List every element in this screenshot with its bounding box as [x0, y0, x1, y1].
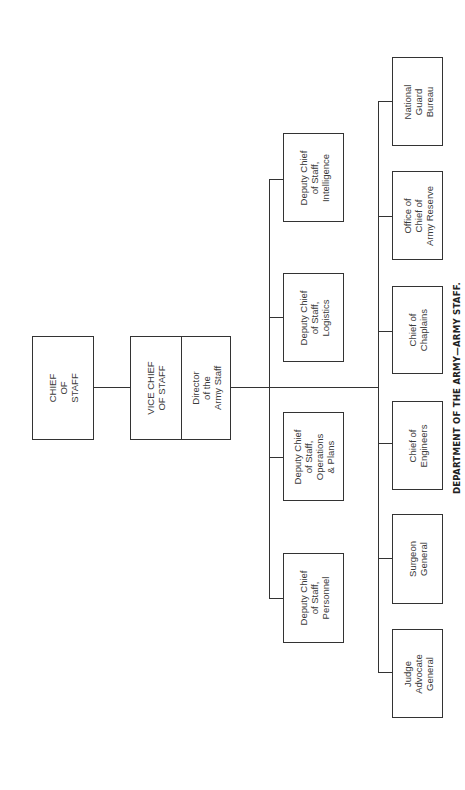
connector-dcs-logistics [269, 317, 283, 318]
connector-judge-advocate [378, 672, 393, 673]
dcs-operations-plans-label: Deputy Chief of Staff, Operations & Plan… [292, 429, 336, 484]
surgeon-general-box: Surgeon General [392, 514, 443, 604]
dcs-operations-plans-box: Deputy Chief of Staff, Operations & Plan… [283, 412, 344, 501]
chief-of-engineers-box: Chief of Engineers [392, 401, 443, 490]
dcs-intelligence-box: Deputy Chief of Staff, Intelligence [283, 133, 344, 222]
director-army-staff-label: Director of the Army Staff [190, 366, 223, 410]
special-staff-bus [378, 101, 379, 673]
connector-surgeon [378, 558, 393, 559]
connector-engineers [378, 443, 393, 444]
chief-of-staff-box: CHIEF OF STAFF [32, 336, 94, 440]
chief-of-engineers-label: Chief of Engineers [407, 424, 429, 467]
connector-national-guard [378, 101, 393, 102]
chart-caption: DEPARTMENT OF THE ARMY—ARMY STAFF. [452, 282, 462, 494]
national-guard-bureau-label: National Guard Bureau [401, 84, 434, 119]
connector-dcs-operations [269, 457, 283, 458]
army-reserve-label: Office of Chief of Army Reserve [401, 185, 434, 245]
dcs-personnel-box: Deputy Chief of Staff, Personnel [283, 553, 344, 643]
chief-of-staff-label: CHIEF OF STAFF [47, 373, 80, 402]
national-guard-bureau-box: National Guard Bureau [392, 57, 443, 146]
vice-chief-director-box: VICE CHIEF OF STAFF Director of the Army… [130, 336, 231, 440]
vice-chief-of-staff-cell: VICE CHIEF OF STAFF [131, 337, 181, 439]
dcs-intelligence-label: Deputy Chief of Staff, Intelligence [297, 150, 330, 205]
judge-advocate-general-box: Judge Advocate General [392, 629, 443, 718]
deputy-chiefs-bus [269, 179, 270, 599]
director-army-staff-cell: Director of the Army Staff [182, 337, 230, 439]
connector-dcs-personnel [269, 598, 283, 599]
judge-advocate-general-label: Judge Advocate General [401, 654, 434, 694]
connector-army-reserve [378, 216, 393, 217]
army-reserve-box: Office of Chief of Army Reserve [392, 171, 443, 260]
chief-of-chaplains-label: Chief of Chaplains [407, 309, 429, 351]
chief-of-chaplains-box: Chief of Chaplains [392, 286, 443, 374]
connector-dcs-intelligence [269, 179, 283, 180]
connector-main-trunk [230, 387, 379, 388]
vice-chief-of-staff-label: VICE CHIEF OF STAFF [145, 361, 167, 414]
dcs-logistics-label: Deputy Chief of Staff, Logistics [297, 290, 330, 345]
dcs-personnel-label: Deputy Chief of Staff, Personnel [297, 571, 330, 626]
connector-chaplains [378, 331, 393, 332]
connector-chief-to-vice [93, 387, 130, 388]
dcs-logistics-box: Deputy Chief of Staff, Logistics [283, 273, 344, 362]
surgeon-general-label: Surgeon General [407, 541, 429, 577]
